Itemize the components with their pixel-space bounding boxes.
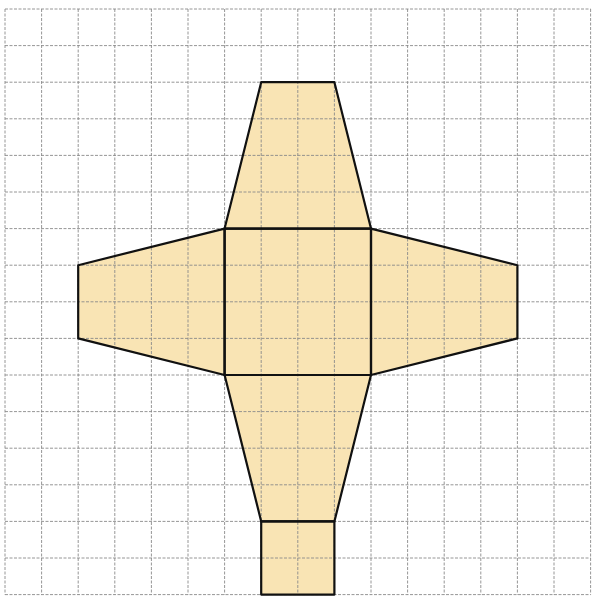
grid-lines [5, 9, 591, 595]
grid-net-diagram [0, 0, 603, 616]
